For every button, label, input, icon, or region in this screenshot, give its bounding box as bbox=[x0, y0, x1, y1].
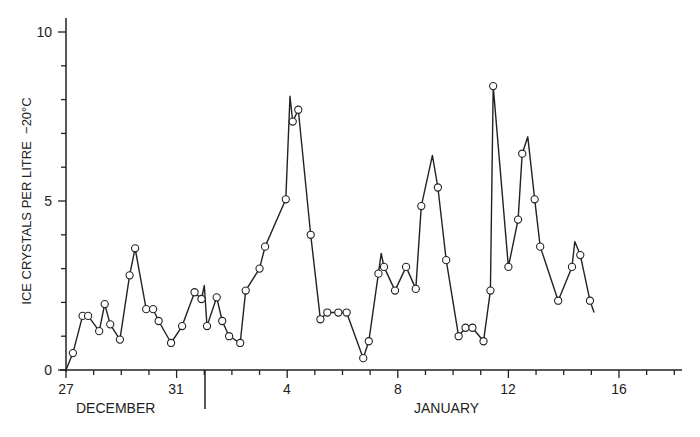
data-point bbox=[443, 257, 450, 264]
data-point bbox=[167, 339, 174, 346]
data-point bbox=[213, 294, 220, 301]
ice-crystal-chart: 10 5 0 ICE CRYSTALS PER LITRE −20°C 27 3… bbox=[0, 0, 700, 437]
data-point bbox=[317, 316, 324, 323]
data-point bbox=[85, 312, 92, 319]
data-point bbox=[116, 336, 123, 343]
x-tick-4: 4 bbox=[283, 381, 291, 397]
data-point bbox=[531, 196, 538, 203]
data-point bbox=[191, 289, 198, 296]
data-point bbox=[391, 287, 398, 294]
data-point bbox=[282, 196, 289, 203]
data-point bbox=[537, 243, 544, 250]
data-point bbox=[203, 322, 210, 329]
data-point bbox=[69, 350, 76, 357]
data-point bbox=[261, 243, 268, 250]
data-point bbox=[469, 324, 476, 331]
data-line bbox=[66, 86, 594, 370]
x-tick-31: 31 bbox=[168, 381, 184, 397]
y-tick-5: 5 bbox=[44, 193, 52, 209]
data-point bbox=[402, 263, 409, 270]
data-point bbox=[434, 184, 441, 191]
data-point bbox=[307, 231, 314, 238]
data-point bbox=[514, 216, 521, 223]
data-point bbox=[143, 306, 150, 313]
data-point bbox=[237, 339, 244, 346]
x-tick-27: 27 bbox=[58, 381, 74, 397]
x-tick-16: 16 bbox=[611, 381, 627, 397]
data-point bbox=[179, 322, 186, 329]
data-point bbox=[107, 321, 114, 328]
data-point bbox=[198, 295, 205, 302]
data-point bbox=[577, 251, 584, 258]
data-point bbox=[519, 150, 526, 157]
y-tick-10: 10 bbox=[36, 24, 52, 40]
data-point bbox=[487, 287, 494, 294]
data-point bbox=[132, 245, 139, 252]
y-axis: 10 5 0 ICE CRYSTALS PER LITRE −20°C bbox=[19, 18, 66, 378]
month-label-december: DECEMBER bbox=[76, 400, 155, 416]
data-point bbox=[586, 297, 593, 304]
data-point bbox=[295, 106, 302, 113]
data-point bbox=[455, 333, 462, 340]
data-point bbox=[505, 263, 512, 270]
y-tick-0: 0 bbox=[44, 362, 52, 378]
data-markers bbox=[69, 82, 593, 361]
y-axis-label: ICE CRYSTALS PER LITRE −20°C bbox=[19, 97, 34, 304]
data-point bbox=[480, 338, 487, 345]
data-point bbox=[155, 317, 162, 324]
data-point bbox=[126, 272, 133, 279]
data-point bbox=[375, 270, 382, 277]
data-point bbox=[462, 324, 469, 331]
data-point bbox=[568, 263, 575, 270]
data-point bbox=[226, 333, 233, 340]
data-point bbox=[365, 338, 372, 345]
data-point bbox=[219, 317, 226, 324]
x-tick-8: 8 bbox=[394, 381, 402, 397]
x-tick-12: 12 bbox=[500, 381, 516, 397]
data-point bbox=[96, 328, 103, 335]
data-point bbox=[324, 309, 331, 316]
data-point bbox=[256, 265, 263, 272]
data-point bbox=[242, 287, 249, 294]
data-point bbox=[149, 306, 156, 313]
data-point bbox=[335, 309, 342, 316]
data-point bbox=[101, 300, 108, 307]
data-point bbox=[412, 285, 419, 292]
data-point bbox=[555, 297, 562, 304]
data-point bbox=[289, 118, 296, 125]
x-axis: 27 31 4 8 12 16 DECEMBER JANUARY bbox=[58, 370, 682, 416]
data-point bbox=[380, 263, 387, 270]
data-point bbox=[360, 355, 367, 362]
data-point bbox=[418, 202, 425, 209]
data-point bbox=[490, 82, 497, 89]
month-label-january: JANUARY bbox=[414, 400, 480, 416]
data-point bbox=[343, 309, 350, 316]
